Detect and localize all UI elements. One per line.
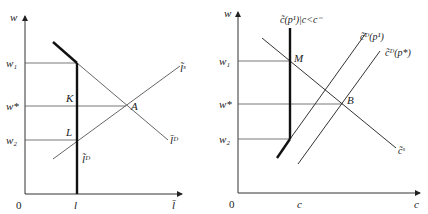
left-w2-label: w₂ <box>6 134 17 146</box>
left-demand-label: l̄ᴰ <box>170 134 179 146</box>
right-wstar-label: w* <box>219 98 232 110</box>
left-x-tick-label: l <box>74 199 77 211</box>
point-L-label: L <box>65 126 72 138</box>
diagram-canvas: w w₁ w* w₂ 0 l l̄ K A L l̃ˢ l̄ᴰ l̃ᴰ w w₁… <box>0 0 428 214</box>
left-panel: w w₁ w* w₂ 0 l l̄ K A L l̃ˢ l̄ᴰ l̃ᴰ <box>6 11 186 211</box>
right-supply-line <box>262 38 396 148</box>
right-panel: w w₁ w* w₂ 0 c c M B c̃(p¹)|c<c⁻ c̃ᴰ(p¹)… <box>219 7 420 210</box>
point-K-label: K <box>65 92 74 104</box>
right-w1-label: w₁ <box>219 55 230 67</box>
point-M-label: M <box>293 52 304 64</box>
left-wstar-label: w* <box>6 100 19 112</box>
right-x-axis-label: c <box>414 198 419 210</box>
right-demand-pstar-line <box>298 51 380 164</box>
left-demand-line <box>77 63 168 140</box>
left-thick-segment <box>53 42 77 63</box>
right-x-tick-label: c <box>297 198 302 210</box>
point-B-label: B <box>347 94 354 106</box>
right-w2-label: w₂ <box>219 133 230 145</box>
right-thick-segment <box>277 139 290 158</box>
right-y-axis-label: w <box>224 7 232 19</box>
right-rationed-label: c̃(p¹)|c<c⁻ <box>280 14 323 26</box>
left-origin-label: 0 <box>16 199 22 211</box>
right-demand-p1-label: c̃ᴰ(p¹) <box>360 31 385 43</box>
left-supply-label: l̃ˢ <box>180 62 186 74</box>
right-demand-pstar-label: c̃ᴰ(p*) <box>385 47 412 59</box>
left-vertical-label: l̃ᴰ <box>82 153 91 165</box>
left-x-axis-label: l̄ <box>172 199 176 211</box>
right-supply-label: c̃ˢ <box>398 145 405 156</box>
point-A-label: A <box>130 100 138 112</box>
left-supply-line <box>53 66 180 159</box>
left-w1-label: w₁ <box>6 57 17 69</box>
left-y-axis-label: w <box>10 11 18 23</box>
right-origin-label: 0 <box>229 198 235 210</box>
